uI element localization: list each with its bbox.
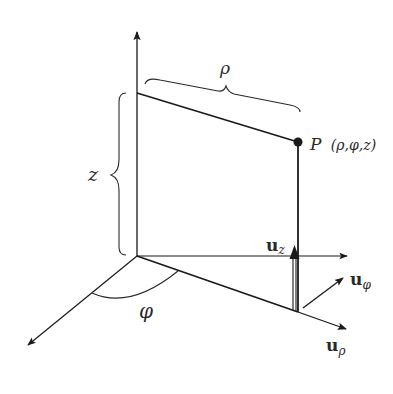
u-phi-arrow [303,278,343,308]
u-phi-label: uφ [350,269,371,292]
u-phi-base: u [350,269,362,289]
z-brace [111,93,126,255]
u-z-subscript: z [277,243,285,257]
u-rho-arrow [298,312,346,329]
u-rho-label: uρ [326,335,345,358]
x-axis [28,256,137,345]
point-coordinates: (ρ,φ,z) [331,137,376,153]
phi-arc [92,271,178,298]
point-name: P [309,134,322,154]
radial-edge [137,256,298,312]
u-z-base: u [266,235,278,255]
point-label: P (ρ,φ,z) [309,134,376,154]
phi-label: φ [139,299,153,323]
rho-label: ρ [219,58,230,78]
u-rho-base: u [326,335,338,355]
z-label: z [87,163,99,185]
point-p [294,138,303,147]
cylindrical-coordinates-diagram: ρ z φ P (ρ,φ,z) uz uφ uρ [0,0,393,394]
u-phi-subscript: φ [362,278,371,292]
u-rho-subscript: ρ [337,344,345,358]
top-edge [137,93,298,142]
rho-brace [145,79,300,112]
u-z-label: uz [266,235,285,257]
